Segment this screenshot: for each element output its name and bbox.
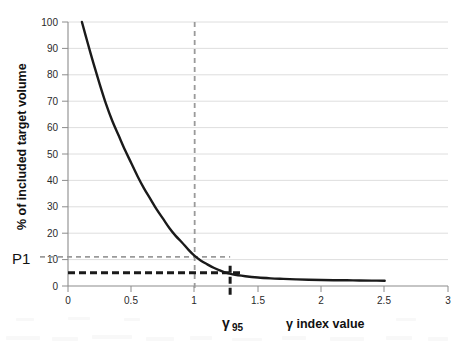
x-tick-labels: 0 0.5 1 1.5 2 2.5 3 [65,295,451,306]
gamma95-annotation-label: γ [222,315,230,331]
scan-noise-speckle [92,335,132,339]
gamma-volume-curve [82,22,385,281]
scan-noise-speckle [428,337,448,341]
x-axis-ticks [68,286,448,292]
x-tick-label: 0 [65,295,71,306]
scan-noise-speckle [386,336,412,340]
y-axis-ticks [62,22,68,286]
scan-noise-speckle [146,337,174,341]
scan-noise-speckle [396,318,416,321]
x-tick-label: 2.5 [377,295,391,306]
y-tick-label: 20 [47,228,59,239]
y-tick-label: 90 [47,43,59,54]
gamma95-annotation-subscript: 95 [232,322,244,333]
scan-noise-speckle [16,318,34,321]
scan-noise-speckle [330,337,364,341]
y-tick-label: 100 [41,17,58,28]
y-tick-labels: 100 90 80 70 60 50 40 30 20 10 0 [41,17,58,292]
y-tick-label: 50 [47,149,59,160]
x-tick-label: 1 [191,295,197,306]
scan-noise-speckle [232,338,262,341]
scan-noise-speckle [124,318,140,321]
x-tick-label: 2 [318,295,324,306]
y-tick-label: 60 [47,122,59,133]
scan-noise-speckle [6,336,40,340]
y-tick-label: 40 [47,175,59,186]
y-tick-label: 70 [47,96,59,107]
chart-canvas: 100 90 80 70 60 50 40 30 20 10 0 0 0.5 1… [0,0,466,349]
y-tick-label: 0 [52,281,58,292]
scan-noise-speckle [190,336,212,340]
x-axis-title: γ index value [286,317,365,331]
y-tick-label: 80 [47,69,59,80]
y-axis-title: % of included target volume [15,63,29,230]
scan-noise-speckle [282,336,306,340]
y-tick-label: 30 [47,201,59,212]
y-tick-label: 10 [47,254,59,265]
scan-noise-speckle [68,317,90,320]
x-tick-label: 3 [445,295,451,306]
x-tick-label: 0.5 [124,295,138,306]
gamma-volume-histogram-chart: 100 90 80 70 60 50 40 30 20 10 0 0 0.5 1… [0,0,466,349]
gridlines-horizontal [68,22,448,260]
scan-noise-speckle [52,337,78,341]
x-tick-label: 1.5 [251,295,265,306]
p1-annotation-label: P1 [12,250,30,267]
